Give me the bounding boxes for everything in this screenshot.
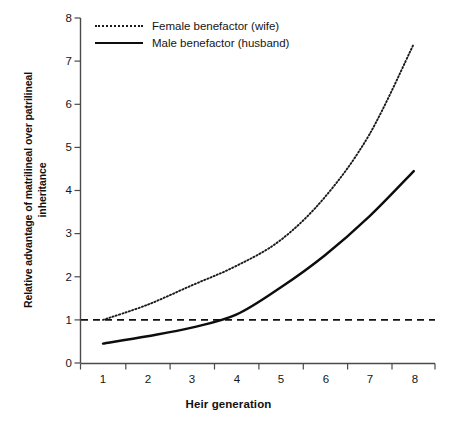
plot-area <box>0 0 457 427</box>
x-axis-ticks <box>81 364 436 370</box>
y-axis-ticks <box>75 18 81 363</box>
series-line-female-benefactor <box>103 44 414 320</box>
series-line-male-benefactor <box>103 171 414 344</box>
chart-figure: Relative advantage of matrilineal over p… <box>0 0 457 427</box>
